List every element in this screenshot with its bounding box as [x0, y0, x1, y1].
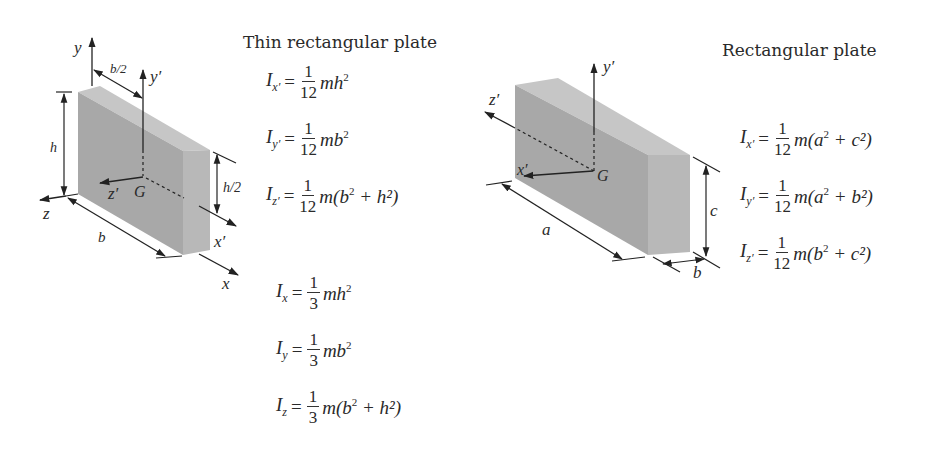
label-G: G	[597, 167, 609, 184]
label-y: y	[72, 38, 82, 57]
equation-Iy-thin: Iy = 13 mb2	[276, 331, 352, 369]
label-h: h	[50, 140, 57, 155]
label-y-prime: y′	[601, 57, 615, 76]
label-a: a	[542, 220, 551, 239]
equation-Iy-prime-thin: Iy′ = 112 mb2	[266, 120, 349, 158]
z-prime-axis-arrow	[485, 112, 515, 128]
label-b: b	[98, 229, 106, 245]
label-z-prime: z′	[488, 90, 500, 109]
thin-plate-figure: y b/2 y′ h z′ G h/2 z b x′ x	[40, 38, 241, 293]
equation-Iz-prime-thin: Iz′ = 112 m(b2 + h²)	[266, 177, 398, 215]
thin-plate-title: Thin rectangular plate	[243, 32, 437, 52]
equation-Ix-thin: Ix = 13 mh2	[276, 274, 352, 312]
label-b: b	[693, 263, 702, 282]
x-axis-arrow	[199, 254, 238, 275]
label-c: c	[710, 201, 718, 220]
equation-Iz-prime-rect: Iz′ = 112 m(b2 + c²)	[740, 234, 871, 272]
label-x: x	[221, 274, 230, 293]
label-x-prime: x′	[516, 161, 528, 178]
equation-Iz-thin: Iz = 13 m(b2 + h²)	[276, 388, 401, 426]
label-z-prime: z′	[107, 184, 119, 203]
thin-plate-side-face	[183, 150, 210, 255]
label-z: z	[42, 204, 50, 223]
rect-plate-side-face	[648, 155, 690, 255]
label-G: G	[134, 183, 146, 200]
rectangular-plate-figure: y′ z′ x′ G a c b	[485, 57, 720, 282]
equation-Ix-prime-rect: Ix′ = 112 m(a2 + c²)	[740, 120, 872, 158]
equation-Ix-prime-thin: Ix′ = 112 mh2	[266, 63, 349, 101]
rect-plate-title: Rectangular plate	[722, 40, 877, 60]
label-h-half: h/2	[223, 180, 241, 195]
label-x-prime: x′	[213, 232, 226, 251]
label-y-prime: y′	[148, 67, 162, 86]
z-axis-arrow	[40, 196, 66, 200]
equation-Iy-prime-rect: Iy′ = 112 m(a2 + b²)	[740, 177, 873, 215]
label-b-half: b/2	[110, 61, 127, 76]
